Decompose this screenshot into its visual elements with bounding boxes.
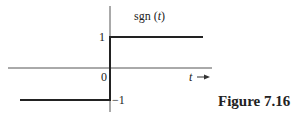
y-tick-1: 1 — [99, 31, 105, 43]
origin-label: 0 — [101, 71, 107, 83]
figure-caption: Figure 7.16 — [218, 94, 290, 109]
x-axis-label: t — [189, 71, 192, 83]
function-label: sgn (t) — [134, 10, 165, 22]
y-tick-neg1: −1 — [112, 94, 125, 106]
